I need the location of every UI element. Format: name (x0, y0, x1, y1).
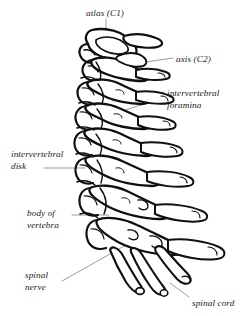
label-spinal-cord: spinal cord (192, 298, 234, 310)
label-body-line-2: vertebra (27, 220, 59, 232)
label-foramina-line-1: intervertebral (167, 88, 219, 100)
label-atlas: atlas (C1) (86, 8, 124, 20)
label-nerve-line-2: nerve (25, 282, 48, 294)
label-intervertebral-foramina: intervertebral foramina (167, 88, 219, 111)
label-disk-line-1: intervertebral (11, 149, 63, 161)
label-nerve-line-1: spinal (25, 270, 48, 282)
label-foramina-line-2: foramina (167, 100, 219, 112)
label-atlas-line-1: atlas (C1) (86, 8, 124, 20)
label-spinal-nerve: spinal nerve (25, 270, 48, 293)
label-body-line-1: body of (27, 208, 59, 220)
label-axis-line-1: axis (C2) (176, 54, 211, 66)
label-disk-line-2: disk (11, 161, 63, 173)
label-intervertebral-disk: intervertebral disk (11, 149, 63, 172)
label-body-of-vertebra: body of vertebra (27, 208, 59, 231)
label-axis: axis (C2) (176, 54, 211, 66)
label-cord-line-1: spinal cord (192, 298, 234, 310)
